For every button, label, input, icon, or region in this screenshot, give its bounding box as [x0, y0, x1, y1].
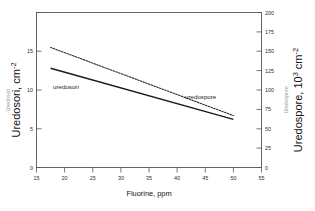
right-axis-title-text-b: cm [292, 54, 304, 72]
left-axis-title: Uredosori, cm-2 [9, 62, 23, 137]
x-tick-label: 20 [62, 175, 68, 181]
left-tick-label: 10 [27, 87, 33, 93]
x-tick-label: 15 [34, 175, 40, 181]
left-axis-ticks [37, 13, 42, 168]
left-axis-title-text: Uredosori, cm [10, 69, 22, 137]
right-tick-label: 175 [265, 29, 274, 35]
left-tick-label: 15 [27, 48, 33, 54]
right-tick-label: 150 [265, 48, 274, 54]
right-tick-label: 100 [265, 87, 274, 93]
x-axis-ticks [37, 168, 262, 173]
x-axis-title: Fluorine, ppm [126, 189, 171, 198]
x-tick-label: 30 [118, 175, 124, 181]
x-axis-tick-labels: 15 20 25 30 35 40 45 50 55 [34, 175, 265, 181]
right-axis-ticks [257, 13, 262, 168]
series-line-uredospore [51, 47, 234, 115]
x-tick-label: 50 [230, 175, 236, 181]
right-axis-tick-labels: 0 25 50 75 100 125 150 175 200 [265, 10, 274, 171]
x-tick-label: 40 [174, 175, 180, 181]
chart-figure: 0 5 10 15 0 25 50 75 100 125 150 175 20 [0, 0, 315, 211]
right-tick-label: 0 [265, 165, 268, 171]
x-tick-label: 25 [90, 175, 96, 181]
right-tick-label: 50 [265, 126, 271, 132]
right-tick-label: 25 [265, 145, 271, 151]
right-axis-title: Uredospore, 103 cm-2 [291, 48, 305, 152]
series-annotation-uredospore: uredospore [185, 93, 217, 100]
right-tick-label: 75 [265, 106, 271, 112]
series-annotation-uredosori: uredosori [53, 83, 79, 90]
left-axis-tick-labels: 0 5 10 15 [27, 48, 33, 170]
left-tick-label: 0 [30, 165, 33, 171]
x-tick-label: 35 [146, 175, 152, 181]
right-axis-title-text-a: Uredospore, 10 [292, 76, 304, 152]
x-tick-label: 55 [259, 175, 265, 181]
plot-frame [37, 13, 262, 168]
left-tick-label: 5 [30, 126, 33, 132]
x-tick-label: 45 [202, 175, 208, 181]
right-axis-title-ghost: Uredospore [283, 86, 289, 113]
right-tick-label: 125 [265, 68, 274, 74]
left-axis-title-exponent: -2 [9, 62, 18, 69]
right-tick-label: 200 [265, 10, 274, 16]
right-axis-title-exponent-b: -2 [291, 48, 300, 55]
